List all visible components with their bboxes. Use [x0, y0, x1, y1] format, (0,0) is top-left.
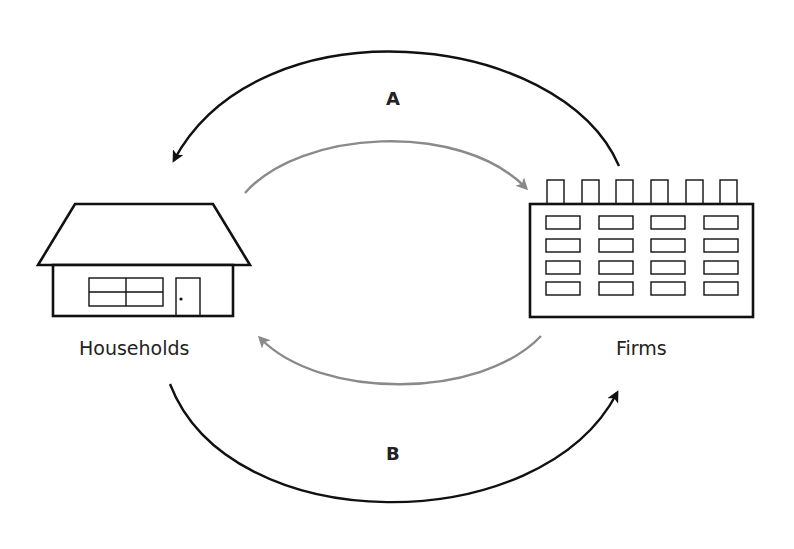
circular-flow-diagram [0, 0, 794, 549]
flow-arrow-inner-top [245, 141, 526, 193]
flow-label-a: A [386, 88, 400, 109]
firms-label: Firms [616, 337, 667, 359]
flow-arrow-inner-bottom [260, 336, 541, 384]
factory-building-icon [530, 180, 753, 317]
households-label: Households [79, 337, 189, 359]
flow-label-b: B [386, 443, 400, 464]
house-icon [38, 204, 250, 316]
